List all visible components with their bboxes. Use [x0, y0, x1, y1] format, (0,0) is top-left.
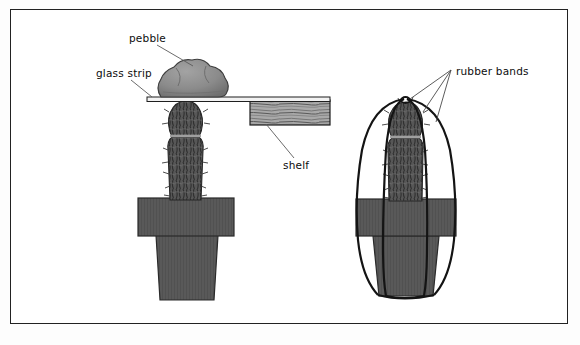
diagram-canvas: [0, 0, 580, 345]
shelf-object: [250, 100, 330, 125]
leader-glass-strip: [131, 80, 152, 97]
label-pebble: pebble: [129, 32, 166, 44]
leader-band-c: [436, 70, 451, 122]
right-scene: [356, 70, 456, 299]
label-shelf: shelf: [283, 159, 309, 171]
diagram-figure: pebble glass strip shelf rubber bands: [0, 0, 580, 345]
glass-strip-object: [147, 97, 330, 102]
right-pot: [356, 199, 456, 296]
label-glass-strip: glass strip: [96, 67, 152, 79]
leader-shelf: [266, 124, 294, 158]
left-cactus: [162, 96, 210, 200]
leader-pebble: [157, 45, 193, 66]
leader-band-a: [410, 70, 451, 99]
pebble-object: [158, 59, 228, 97]
label-rubber-bands: rubber bands: [456, 65, 529, 77]
left-pot: [138, 198, 234, 300]
right-cactus: [382, 97, 430, 201]
leader-band-b: [423, 70, 451, 112]
left-scene: [131, 45, 330, 300]
